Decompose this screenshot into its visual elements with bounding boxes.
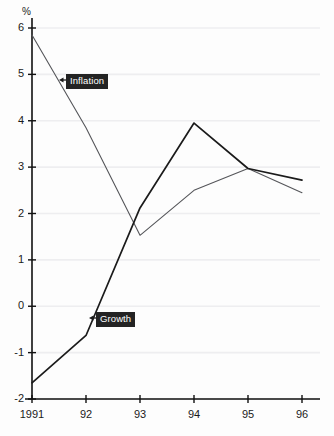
series-label-growth: Growth bbox=[96, 312, 135, 327]
y-tick-label: -1 bbox=[2, 346, 24, 358]
x-tick-label: 96 bbox=[277, 408, 327, 420]
x-tick-label: 92 bbox=[61, 408, 111, 420]
series-line-inflation bbox=[32, 35, 302, 235]
y-tick-label: 0 bbox=[2, 299, 24, 311]
y-tick-label: -2 bbox=[2, 392, 24, 404]
x-tick-label: 93 bbox=[115, 408, 165, 420]
annotation-arrow-growth-head bbox=[89, 315, 94, 320]
x-tick-label: 1991 bbox=[7, 408, 57, 420]
y-tick-label: 6 bbox=[2, 21, 24, 33]
y-tick-label: 1 bbox=[2, 253, 24, 265]
chart-plot-area bbox=[0, 0, 334, 436]
series-line-growth bbox=[32, 123, 302, 383]
line-chart-inflation-growth: % 6543210-1-2 19919293949596 Inflation G… bbox=[0, 0, 334, 436]
series-label-inflation: Inflation bbox=[66, 74, 108, 89]
x-tick-label: 94 bbox=[169, 408, 219, 420]
y-tick-label: 2 bbox=[2, 207, 24, 219]
y-tick-label: 3 bbox=[2, 160, 24, 172]
y-tick-label: 5 bbox=[2, 67, 24, 79]
annotation-arrow-group bbox=[59, 77, 99, 320]
x-tick-label: 95 bbox=[223, 408, 273, 420]
y-tick-label: 4 bbox=[2, 114, 24, 126]
